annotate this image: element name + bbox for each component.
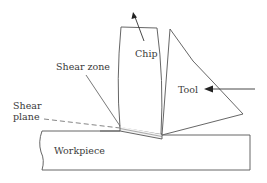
tool-label: Tool bbox=[178, 84, 198, 95]
chip-arrow-head-icon bbox=[132, 12, 138, 19]
shear-zone-leader bbox=[86, 75, 120, 126]
chip-label: Chip bbox=[135, 48, 158, 59]
tool-body bbox=[162, 29, 243, 135]
shear-plane-label-line1: Shear bbox=[13, 100, 41, 111]
shear-zone-label: Shear zone bbox=[56, 61, 110, 72]
cutting-diagram bbox=[0, 0, 267, 183]
shear-plane-label-line2: plane bbox=[13, 111, 40, 122]
chip-body bbox=[118, 27, 162, 134]
workpiece-label: Workpiece bbox=[54, 145, 105, 156]
shear-plane-dashed-line bbox=[44, 119, 120, 128]
